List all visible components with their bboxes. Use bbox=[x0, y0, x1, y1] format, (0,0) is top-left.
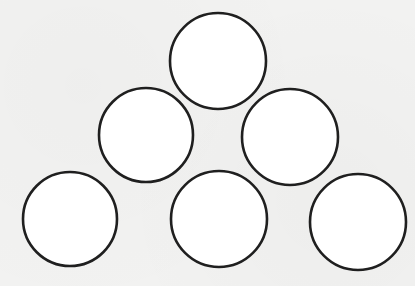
diagram-canvas bbox=[0, 0, 415, 286]
circle-middle-left bbox=[99, 88, 193, 182]
circle-middle-right bbox=[242, 89, 338, 185]
circle-bottom-right bbox=[310, 174, 406, 270]
circle-bottom-middle bbox=[171, 171, 267, 267]
circle-triangle-diagram bbox=[0, 0, 415, 286]
circle-bottom-left bbox=[23, 172, 117, 266]
circle-top bbox=[170, 13, 266, 109]
